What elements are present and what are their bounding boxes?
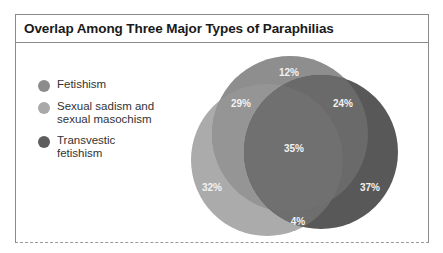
label-all-three: 35% — [284, 143, 304, 154]
venn-diagram: 12% 29% 24% 35% 32% 37% 4% — [0, 0, 443, 253]
label-sadism-transvestic: 4% — [291, 216, 306, 227]
label-fetishism-transvestic: 24% — [333, 98, 353, 109]
label-sadism-only: 32% — [202, 182, 222, 193]
label-transvestic-only: 37% — [360, 182, 380, 193]
label-fetishism-only: 12% — [279, 67, 299, 78]
label-fetishism-sadism: 29% — [231, 98, 251, 109]
